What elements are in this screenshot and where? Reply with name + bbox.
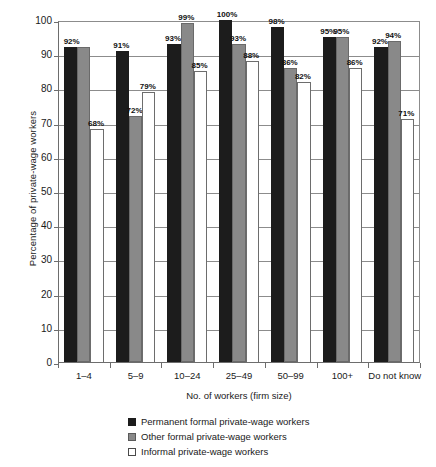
bar-value-label: 86% <box>347 59 363 67</box>
bar-3-2 <box>246 61 259 362</box>
bar-value-label: 91% <box>113 42 129 50</box>
bar-3-0 <box>219 20 232 362</box>
x-axis-tick-label: 10–24 <box>161 371 213 381</box>
y-axis-tick-mark <box>54 193 59 194</box>
y-axis-tick-label: 50 <box>12 187 52 197</box>
bar-3-1 <box>232 44 245 362</box>
bar-value-label: 86% <box>282 59 298 67</box>
legend-label: Permanent formal private-wage workers <box>141 417 309 427</box>
x-axis-tick-mark <box>58 363 59 368</box>
chart-legend: Permanent formal private-wage workersOth… <box>128 414 309 459</box>
bar-5-1 <box>336 37 349 362</box>
bar-2-1 <box>181 23 194 362</box>
bar-value-label: 88% <box>243 52 259 60</box>
bar-value-label: 94% <box>385 32 401 40</box>
y-axis-tick-label: 0 <box>12 358 52 368</box>
y-axis-tick-mark <box>54 125 59 126</box>
y-axis-tick-label: 100 <box>12 16 52 26</box>
y-axis-tick-label: 90 <box>12 50 52 60</box>
bar-2-2 <box>194 71 207 362</box>
y-axis-tick-label: 40 <box>12 221 52 231</box>
x-axis-tick-mark <box>265 363 266 368</box>
y-axis-tick-label: 60 <box>12 153 52 163</box>
legend-swatch-icon <box>128 433 136 441</box>
bar-4-2 <box>297 82 310 362</box>
chart-figure: Percentage of private-wage workers 01020… <box>0 0 436 467</box>
bar-value-label: 68% <box>88 120 104 128</box>
x-axis-tick-label: 50–99 <box>265 371 317 381</box>
bar-value-label: 85% <box>191 62 207 70</box>
bar-value-label: 79% <box>140 83 156 91</box>
y-axis-tick-label: 30 <box>12 255 52 265</box>
legend-swatch-icon <box>128 418 136 426</box>
x-axis-tick-mark <box>420 363 421 368</box>
legend-item: Other formal private-wage workers <box>128 429 309 444</box>
bar-0-1 <box>77 47 90 362</box>
x-axis-tick-mark <box>368 363 369 368</box>
legend-swatch-icon <box>128 448 136 456</box>
bar-value-label: 99% <box>178 14 194 22</box>
plot-area: 92%68%91%72%79%93%99%85%100%93%88%98%86%… <box>58 21 420 363</box>
x-axis-tick-mark <box>110 363 111 368</box>
bar-6-1 <box>388 41 401 362</box>
x-axis-tick-mark <box>317 363 318 368</box>
bar-value-label: 93% <box>165 35 181 43</box>
bar-value-label: 98% <box>269 18 285 26</box>
y-axis-tick-mark <box>54 261 59 262</box>
bar-value-label: 95% <box>333 28 349 36</box>
x-axis-tick-label: 25–49 <box>213 371 265 381</box>
bar-value-label: 82% <box>295 73 311 81</box>
legend-item: Permanent formal private-wage workers <box>128 414 309 429</box>
legend-label: Informal private-wage workers <box>141 447 268 457</box>
bar-value-label: 92% <box>372 38 388 46</box>
bar-1-0 <box>116 51 129 362</box>
y-axis-tick-label: 70 <box>12 119 52 129</box>
bar-4-0 <box>271 27 284 362</box>
y-axis-tick-mark <box>54 56 59 57</box>
bar-value-label: 100% <box>217 11 237 19</box>
bar-5-0 <box>323 37 336 362</box>
bar-4-1 <box>284 68 297 362</box>
x-axis-tick-label: 100+ <box>317 371 369 381</box>
x-axis-tick-mark <box>161 363 162 368</box>
bar-0-2 <box>90 129 103 362</box>
x-axis-tick-label: Do not know <box>368 371 420 381</box>
bar-2-0 <box>167 44 180 362</box>
legend-item: Informal private-wage workers <box>128 444 309 459</box>
legend-label: Other formal private-wage workers <box>141 432 287 442</box>
y-axis-tick-mark <box>54 159 59 160</box>
bar-1-2 <box>142 92 155 362</box>
bar-value-label: 71% <box>398 110 414 118</box>
y-axis-tick-mark <box>54 296 59 297</box>
bar-5-2 <box>349 68 362 362</box>
y-axis-tick-mark <box>54 90 59 91</box>
bar-0-0 <box>64 47 77 362</box>
y-axis-tick-label: 10 <box>12 324 52 334</box>
bar-1-1 <box>129 116 142 362</box>
x-axis-tick-mark <box>213 363 214 368</box>
y-axis-tick-mark <box>54 227 59 228</box>
y-axis-tick-label: 80 <box>12 84 52 94</box>
y-axis-tick-mark <box>54 22 59 23</box>
x-axis-tick-label: 5–9 <box>110 371 162 381</box>
bar-6-2 <box>401 119 414 362</box>
x-axis-title: No. of workers (firm size) <box>58 390 420 401</box>
bar-6-0 <box>374 47 387 362</box>
bar-value-label: 72% <box>127 107 143 115</box>
bar-value-label: 93% <box>230 35 246 43</box>
y-axis-tick-label: 20 <box>12 290 52 300</box>
bar-value-label: 92% <box>64 38 80 46</box>
y-axis-tick-mark <box>54 330 59 331</box>
x-axis-tick-label: 1–4 <box>58 371 110 381</box>
